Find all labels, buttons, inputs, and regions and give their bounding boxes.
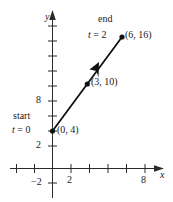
y-axis-arrowhead [49, 10, 56, 20]
y-tick-label-neg2: −2 [31, 177, 42, 187]
x-tick-label-2: 2 [67, 175, 72, 185]
start-annotation: start [13, 111, 30, 121]
parametric-line-figure: y x 8 2 −2 2 8 end t = 2 (6, 16) (3, 10)… [0, 0, 173, 202]
t-equals-0-annotation: t = 0 [12, 125, 30, 135]
point-label-end: (6, 16) [125, 30, 152, 40]
t-start-value: = 0 [15, 124, 31, 135]
data-point-end [119, 34, 124, 39]
end-annotation: end [98, 14, 112, 24]
y-tick-label-8: 8 [36, 95, 41, 105]
y-axis-name: y [45, 12, 49, 22]
y-tick-label-2: 2 [36, 140, 41, 150]
data-point-middle [85, 81, 90, 86]
t-end-value: = 2 [91, 29, 107, 40]
point-label-middle: (3, 10) [91, 77, 118, 87]
x-tick-label-8: 8 [141, 175, 146, 185]
data-point-start [50, 128, 55, 133]
x-axis-name: x [160, 170, 164, 180]
point-label-start: (0, 4) [57, 125, 79, 135]
t-equals-2-annotation: t = 2 [88, 30, 106, 40]
